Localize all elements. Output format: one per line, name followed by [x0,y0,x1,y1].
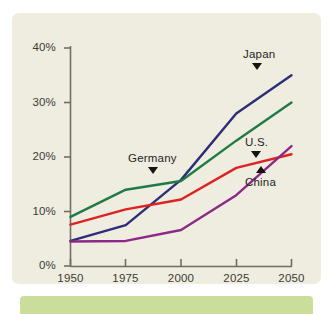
x-tick-label-2025: 2025 [214,272,260,284]
series-line-us [71,154,292,224]
series-label-china: China [245,176,276,188]
japan-pointer-icon [252,63,262,70]
x-axis-ticks [71,259,292,266]
y-tick-label-0: 0% [20,259,56,271]
series-label-germany: Germany [128,152,177,164]
x-tick-label-1950: 1950 [48,272,94,284]
y-tick-label-40: 40% [20,41,56,53]
series-line-china [71,146,292,241]
x-tick-label-1975: 1975 [103,272,149,284]
series-lines [71,75,292,241]
china-pointer-icon [256,166,266,173]
y-tick-label-30: 30% [20,96,56,108]
x-tick-label-2050: 2050 [269,272,315,284]
germany-pointer-icon [148,167,158,174]
us-pointer-icon [251,151,261,158]
x-tick-label-2000: 2000 [158,272,204,284]
series-label-japan: Japan [243,48,275,60]
y-axis-ticks [64,48,70,266]
chart-figure: 40% 30% 20% 10% 0% 1950 1975 2000 2025 2… [0,0,333,314]
y-tick-label-10: 10% [20,205,56,217]
bottom-color-band [20,296,313,314]
series-label-us: U.S. [245,136,268,148]
y-tick-label-20: 20% [20,150,56,162]
